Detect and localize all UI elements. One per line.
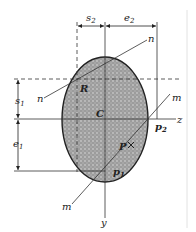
label-s1: s1 <box>15 95 25 108</box>
label-n-top: n <box>148 33 154 44</box>
label-m-bottom: m <box>62 201 71 212</box>
label-p: P <box>118 141 127 152</box>
label-r: R <box>79 83 88 94</box>
cross-section-diagram: s2 e2 s1 e1 n n m m R C P p1 p2 z y <box>0 0 196 232</box>
label-n-bottom: n <box>37 93 43 104</box>
label-y-axis: y <box>100 217 107 228</box>
label-c: C <box>96 108 104 119</box>
label-p2: p2 <box>155 121 167 134</box>
label-z-axis: z <box>176 114 183 125</box>
label-m-top: m <box>172 92 181 103</box>
label-e1: e1 <box>13 138 23 151</box>
label-e2: e2 <box>124 12 135 25</box>
label-s2: s2 <box>86 12 96 25</box>
